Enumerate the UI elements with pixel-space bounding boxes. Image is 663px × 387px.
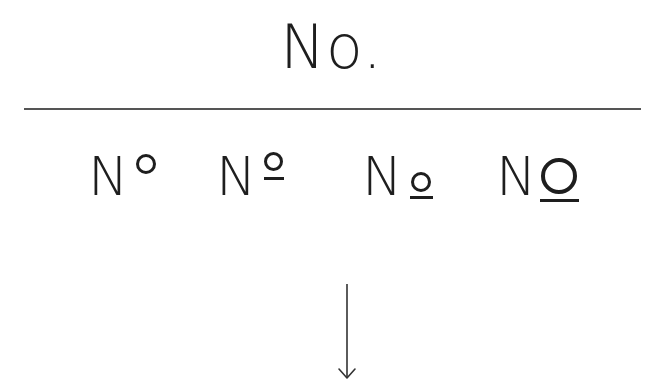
- variant-numero-degree: N: [88, 150, 168, 210]
- large-o-icon: [541, 158, 577, 194]
- superscript-o-icon: [136, 154, 156, 174]
- letter-n: N: [88, 150, 128, 204]
- variant-numero-large-underlined: N: [496, 150, 596, 210]
- letter-n: N: [362, 150, 402, 204]
- small-o-underline: [410, 196, 433, 199]
- letter-n: N: [496, 150, 536, 204]
- variant-numero-small-underlined: N: [362, 150, 442, 210]
- arrow-down-icon: [330, 280, 364, 384]
- small-o-icon: [411, 172, 431, 192]
- divider-line: [24, 108, 641, 110]
- superscript-o-icon: [264, 152, 283, 171]
- abbreviation-title: No.: [0, 14, 663, 80]
- large-o-underline: [540, 199, 579, 202]
- variant-numero-ordinal: N: [216, 150, 296, 210]
- ordinal-underline: [264, 177, 284, 180]
- letter-n: N: [216, 150, 256, 204]
